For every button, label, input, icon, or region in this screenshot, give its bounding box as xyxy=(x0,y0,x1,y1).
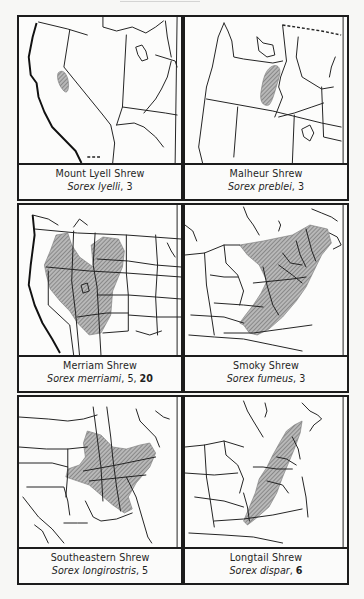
species-binomial: Sorex fumeus xyxy=(227,373,293,384)
common-name: Longtail Shrew xyxy=(230,551,302,564)
common-name: Merriam Shrew xyxy=(63,359,137,372)
caption: Southeastern Shrew Sorex longirostris, 5 xyxy=(19,545,181,583)
common-name: Malheur Shrew xyxy=(230,167,303,180)
scientific-name: Sorex dispar, 6 xyxy=(230,564,303,577)
common-name: Southeastern Shrew xyxy=(51,551,150,564)
range-map xyxy=(19,17,181,165)
book-page: Mount Lyell Shrew Sorex lyelli, 3 xyxy=(0,0,364,599)
scientific-name: Sorex preblei, 3 xyxy=(228,180,304,193)
range-area xyxy=(66,431,156,513)
page-header-rule xyxy=(120,1,200,2)
range-map xyxy=(185,397,347,549)
caption: Smoky Shrew Sorex fumeus, 3 xyxy=(185,353,347,391)
map-western-us xyxy=(19,205,181,355)
plate-refs: , 3 xyxy=(120,181,132,192)
range-map-panel-malheur-shrew: Malheur Shrew Sorex preblei, 3 xyxy=(183,15,349,201)
caption: Merriam Shrew Sorex merriami, 5, 20 xyxy=(19,353,181,391)
scientific-name: Sorex lyelli, 3 xyxy=(68,180,133,193)
range-area xyxy=(261,66,280,106)
caption: Longtail Shrew Sorex dispar, 6 xyxy=(185,545,347,583)
range-area xyxy=(244,421,303,525)
caption: Malheur Shrew Sorex preblei, 3 xyxy=(185,161,347,199)
range-map-panel-southeastern-shrew: Southeastern Shrew Sorex longirostris, 5 xyxy=(17,395,183,585)
species-binomial: Sorex preblei xyxy=(228,181,292,192)
range-map-panel-longtail-shrew: Longtail Shrew Sorex dispar, 6 xyxy=(183,395,349,585)
map-northeastern-us xyxy=(185,205,347,355)
map-oregon-idaho xyxy=(185,17,347,163)
range-map xyxy=(185,205,347,357)
caption: Mount Lyell Shrew Sorex lyelli, 3 xyxy=(19,161,181,199)
range-map-panel-merriam-shrew: Merriam Shrew Sorex merriami, 5, 20 xyxy=(17,203,183,393)
scientific-name: Sorex longirostris, 5 xyxy=(52,564,148,577)
plate-refs: , 5 xyxy=(136,565,148,576)
plate-refs: , 5, xyxy=(121,373,139,384)
common-name: Mount Lyell Shrew xyxy=(56,167,145,180)
plate-refs-bold: 6 xyxy=(296,565,303,576)
plate-refs: , 3 xyxy=(293,373,305,384)
species-binomial: Sorex longirostris xyxy=(52,565,136,576)
plate-refs: , 3 xyxy=(292,181,304,192)
range-map xyxy=(185,17,347,165)
range-map xyxy=(19,397,181,549)
scientific-name: Sorex fumeus, 3 xyxy=(227,372,306,385)
species-binomial: Sorex merriami xyxy=(47,373,121,384)
species-binomial: Sorex lyelli xyxy=(68,181,121,192)
map-california-nevada xyxy=(19,17,181,163)
map-southeastern-us xyxy=(19,397,181,547)
range-area xyxy=(58,71,69,92)
species-binomial: Sorex dispar xyxy=(230,565,290,576)
range-map xyxy=(19,205,181,357)
map-eastern-us xyxy=(185,397,347,547)
common-name: Smoky Shrew xyxy=(233,359,299,372)
range-map-panel-mount-lyell-shrew: Mount Lyell Shrew Sorex lyelli, 3 xyxy=(17,15,183,201)
range-map-panel-smoky-shrew: Smoky Shrew Sorex fumeus, 3 xyxy=(183,203,349,393)
plate-refs-bold: 20 xyxy=(140,373,153,384)
scientific-name: Sorex merriami, 5, 20 xyxy=(47,372,153,385)
